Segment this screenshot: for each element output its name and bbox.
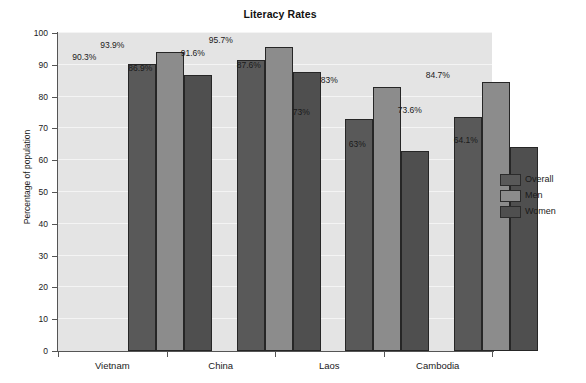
y-axis-title: Percentage of population: [22, 77, 32, 277]
x-axis-category-label: Vietnam: [58, 360, 167, 371]
y-axis-tick-label: 20: [10, 282, 48, 292]
y-axis-tick: [52, 192, 57, 193]
y-axis-tick-label: 60: [10, 155, 48, 165]
y-axis-tick: [52, 97, 57, 98]
bar-value-label: 63%: [334, 139, 380, 149]
y-axis-line: [57, 32, 58, 352]
bar-value-label: 84.7%: [415, 70, 461, 80]
legend-item-women[interactable]: Women: [500, 204, 584, 219]
y-axis-tick: [52, 319, 57, 320]
bar: [156, 52, 184, 351]
bar: [401, 151, 429, 351]
x-axis-tick: [492, 352, 493, 357]
gridline: [58, 32, 492, 33]
bar: [128, 64, 156, 351]
y-axis-tick-label: 100: [10, 28, 48, 38]
bar: [373, 87, 401, 351]
x-axis-tick: [167, 352, 168, 357]
y-axis-tick-label: 80: [10, 92, 48, 102]
x-axis-tick: [384, 352, 385, 357]
bar: [184, 75, 212, 351]
y-axis-tick: [52, 224, 57, 225]
legend-item-overall[interactable]: Overall: [500, 172, 584, 187]
legend-item-men[interactable]: Men: [500, 188, 584, 203]
bar-value-label: 91.6%: [170, 48, 216, 58]
bar: [237, 60, 265, 351]
legend-item-label: Men: [525, 191, 543, 200]
legend-swatch-icon: [500, 190, 521, 202]
y-axis-tick-label: 40: [10, 219, 48, 229]
bar: [454, 117, 482, 351]
legend-swatch-icon: [500, 206, 521, 218]
bar-value-label: 93.9%: [89, 40, 135, 50]
bar-value-label: 64.1%: [443, 135, 489, 145]
literacy-rates-bar-chart: Literacy Rates Percentage of population …: [0, 0, 586, 383]
bar: [345, 119, 373, 351]
bar-value-label: 86.9%: [117, 63, 163, 73]
y-axis-tick: [52, 256, 57, 257]
x-axis-tick: [58, 352, 59, 357]
bar-value-label: 73.6%: [387, 105, 433, 115]
bar-value-label: 73%: [278, 107, 324, 117]
bar-value-label: 87.6%: [226, 60, 272, 70]
x-axis-category-label: China: [167, 360, 276, 371]
y-axis-tick-label: 0: [10, 346, 48, 356]
chart-title: Literacy Rates: [0, 8, 560, 20]
legend-item-label: Women: [525, 207, 556, 216]
plot-area: [58, 33, 492, 351]
x-axis-category-label: Cambodia: [384, 360, 493, 371]
y-axis-tick-label: 30: [10, 251, 48, 261]
bar-value-label: 83%: [306, 75, 352, 85]
y-axis-tick-label: 10: [10, 314, 48, 324]
bar-value-label: 95.7%: [198, 35, 244, 45]
y-axis-tick-label: 90: [10, 60, 48, 70]
chart-legend: OverallMenWomen: [500, 172, 584, 220]
y-axis-tick: [52, 351, 57, 352]
y-axis-tick: [52, 287, 57, 288]
legend-swatch-icon: [500, 174, 521, 186]
x-axis-tick: [275, 352, 276, 357]
y-axis-tick-label: 70: [10, 123, 48, 133]
y-axis-tick-label: 50: [10, 187, 48, 197]
bar-value-label: 90.3%: [61, 52, 107, 62]
y-axis-tick: [52, 33, 57, 34]
legend-item-label: Overall: [525, 175, 554, 184]
y-axis-tick: [52, 128, 57, 129]
y-axis-tick: [52, 160, 57, 161]
y-axis-tick: [52, 65, 57, 66]
x-axis-category-label: Laos: [275, 360, 384, 371]
bar: [265, 47, 293, 351]
